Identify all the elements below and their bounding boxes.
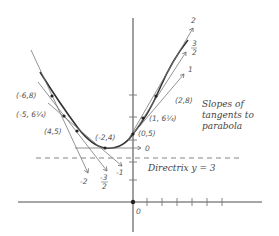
point-4-5 [75,129,78,132]
directrix-label: Directrix y = 3 [147,163,216,173]
point-neg2-4 [103,146,106,149]
label-1-6q: (1, 6¼) [149,114,177,123]
parabola-curve [40,40,188,148]
slope-label-neg3-2-num: -3 [100,173,108,182]
slope-label-1: 1 [188,65,193,74]
tangent-lines [31,28,193,173]
label-neg2-4: (-2,4) [95,133,116,142]
slope-label-3-2-num: 3 [192,39,197,48]
annotation-line-3: parabola [202,121,242,131]
slope-label-neg1: -1 [116,168,123,177]
label-4-5: (4,5) [44,127,62,136]
point-1-6q [141,116,144,119]
annotation-line-2: tangents to [202,110,254,120]
label-2-8: (2,8) [175,96,193,105]
point-labels: (-6,8) (-5, 6¼) (4,5) (-2,4) (0,5) (1, 6… [16,91,193,142]
annotation-text: Slopes of tangents to parabola [202,99,254,131]
label-0-5: (0,5) [138,129,156,138]
point-neg5-6q [62,114,65,117]
annotation-line-1: Slopes of [202,99,245,109]
origin-point [131,200,135,204]
tangent-slope-2 [128,28,193,140]
point-0-5 [131,132,134,135]
parabola-tangent-diagram: 0 Directrix y = 3 (-6,8) (-5, 6¼) (4,5) … [0,0,279,236]
origin-label: 0 [136,207,141,216]
label-neg6-8: (-6,8) [16,91,37,100]
slope-label-3-2-den: 2 [192,48,197,57]
label-neg5-6q: (-5, 6¼) [16,110,46,119]
point-2-8 [154,94,157,97]
slope-label-0: 0 [145,144,150,153]
slope-label-2: 2 [191,16,196,25]
slope-label-neg3-2-den: 2 [102,182,107,191]
point-neg6-8 [50,94,53,97]
slope-label-neg2: -2 [80,177,88,186]
